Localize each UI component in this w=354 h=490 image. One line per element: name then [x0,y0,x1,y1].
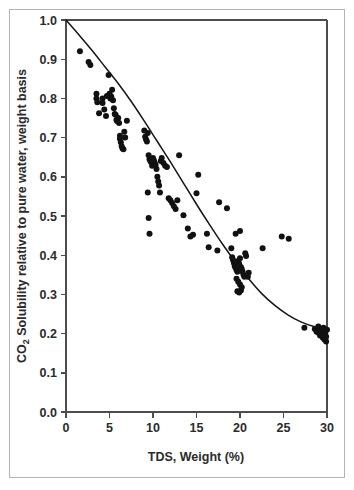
data-point [156,182,162,188]
data-point [146,215,152,221]
y-tick-label: 1.0 [40,14,57,28]
x-tick-label: 5 [106,421,113,435]
y-tick-label: 0.9 [40,53,57,67]
data-point [144,139,150,145]
data-point [190,232,196,238]
data-point [323,338,329,344]
x-tick-label: 20 [233,421,247,435]
y-tick-label: 0.6 [40,170,57,184]
x-tick-label: 25 [277,421,291,435]
data-point [157,189,163,195]
data-point [260,245,266,251]
data-point [77,48,83,54]
y-tick-label: 0.8 [40,92,57,106]
data-point [111,105,117,111]
y-axis-title-rest: Solubility relative to pure water, weigh… [15,69,29,339]
data-point [145,189,151,195]
data-point [237,228,243,234]
data-point [246,270,252,276]
data-point [243,253,249,259]
y-tick-label: 0.4 [40,249,57,263]
x-axis-title: TDS, Weight (%) [148,450,244,464]
x-axis-ticks [66,412,327,418]
data-point [116,120,122,126]
data-point [115,115,121,121]
data-point [224,205,230,211]
data-point [87,62,93,68]
y-tick-label: 0.1 [40,366,57,380]
data-point [195,172,201,178]
data-point [147,231,153,237]
data-point [164,164,170,170]
scatter-plot-svg: 0.00.10.20.30.40.50.60.70.80.91.0 051015… [0,0,354,490]
x-tick-label: 0 [63,421,70,435]
data-point [237,255,243,261]
x-tick-label: 15 [190,421,204,435]
y-axis-title-text: CO2 Solubility relative to pure water, w… [15,69,31,363]
y-axis-title-prefix: CO [15,344,29,363]
y-tick-label: 0.0 [40,406,57,420]
data-point [176,152,182,158]
data-point [286,236,292,242]
data-point [228,245,234,251]
x-tick-label: 30 [320,421,334,435]
data-point [96,110,102,116]
data-point [100,100,106,106]
data-point [103,113,109,119]
y-axis-title: CO2 Solubility relative to pure water, w… [15,69,31,363]
x-axis-tick-labels: 051015202530 [63,421,334,435]
data-point [216,199,222,205]
y-tick-label: 0.2 [40,327,57,341]
data-point [214,248,220,254]
chart-plot-area: 0.00.10.20.30.40.50.60.70.80.91.0 051015… [0,0,354,490]
data-point [124,118,130,124]
data-point [301,325,307,331]
data-point [110,97,116,103]
data-point [185,226,191,232]
data-point [204,231,210,237]
data-point [206,244,212,250]
y-tick-label: 0.5 [40,210,57,224]
data-point [174,197,180,203]
data-point [153,166,159,172]
data-point [94,99,100,105]
data-point [173,206,179,212]
data-points-group [77,48,330,344]
y-tick-label: 0.3 [40,288,57,302]
y-axis-tick-labels: 0.00.10.20.30.40.50.60.70.80.91.0 [40,14,57,420]
data-point [279,233,285,239]
data-point [122,135,128,141]
data-point [109,87,115,93]
y-tick-label: 0.7 [40,131,57,145]
data-point [121,129,127,135]
data-point [238,287,244,293]
data-point [180,212,186,218]
x-tick-label: 10 [146,421,160,435]
data-point [120,146,126,152]
data-point [159,155,165,161]
data-point [101,106,107,112]
data-point [194,190,200,196]
